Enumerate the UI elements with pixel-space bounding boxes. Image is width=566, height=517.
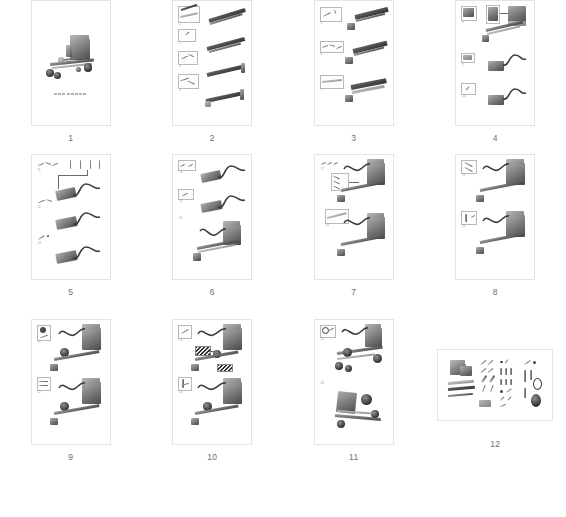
page-number-label: 3 xyxy=(351,134,356,143)
page-preview-4[interactable]: 8 9 10 xyxy=(455,0,535,126)
page-thumbnail-12[interactable]: 12 xyxy=(425,319,566,484)
step-number: 18 xyxy=(326,225,329,228)
step-number: 23 xyxy=(179,340,182,343)
cable-illustration xyxy=(482,159,510,177)
page-artwork-rail-extension: 5 6 7 xyxy=(315,1,393,125)
step-number: 17 xyxy=(321,169,324,172)
page-thumbnail-3[interactable]: 5 6 7 3 xyxy=(283,0,425,154)
page-artwork-frame-rail: 1 2 3 4 xyxy=(173,1,251,125)
step-number: 21 xyxy=(38,342,41,345)
cable-illustration xyxy=(343,159,371,177)
page-artwork-body-detail: 19 20 xyxy=(456,155,534,279)
page-thumbnail-grid: 1 1 2 3 4 xyxy=(0,0,566,517)
page-thumbnail-9[interactable]: 21 22 xyxy=(0,319,142,484)
page-number-label: 1 xyxy=(68,134,73,143)
step-number: 8 xyxy=(462,22,463,25)
step-number: 11 xyxy=(38,170,41,173)
page-artwork-front-hub: 21 22 xyxy=(32,320,110,444)
step-number: 5 xyxy=(321,23,322,26)
cable-illustration xyxy=(197,324,227,342)
page-thumbnail-1[interactable]: 1 xyxy=(0,0,142,154)
page-number-label: 2 xyxy=(210,134,215,143)
step-number: 22 xyxy=(38,392,41,395)
step-number: 25 xyxy=(321,339,324,342)
page-preview-5[interactable]: 11 12 1 xyxy=(31,154,111,280)
page-thumbnail-10[interactable]: 23 24 xyxy=(142,319,284,484)
page-thumbnail-4[interactable]: 8 9 10 xyxy=(425,0,566,154)
page-preview-11[interactable]: 25 26 xyxy=(314,319,394,445)
page-artwork-cable-routing: 11 12 1 xyxy=(32,155,110,279)
page-number-label: 8 xyxy=(493,288,498,297)
page-preview-8[interactable]: 19 20 xyxy=(455,154,535,280)
page-preview-9[interactable]: 21 22 xyxy=(31,319,111,445)
cable-illustration xyxy=(343,213,371,231)
step-number: 1 xyxy=(179,24,180,27)
page-thumbnail-2[interactable]: 1 2 3 4 xyxy=(142,0,284,154)
page-number-label: 11 xyxy=(349,453,358,462)
step-number: 20 xyxy=(462,226,465,229)
step-number: 12 xyxy=(38,207,41,210)
step-number: 14 xyxy=(179,172,182,175)
step-number: 4 xyxy=(179,90,180,93)
page-artwork-overview xyxy=(32,1,110,125)
cable-illustration xyxy=(58,324,86,342)
page-thumbnail-11[interactable]: 25 26 11 xyxy=(283,319,425,484)
step-number: 7 xyxy=(321,90,322,93)
page-preview-6[interactable]: 14 15 16 xyxy=(172,154,252,280)
cable-illustration xyxy=(199,223,227,243)
cable-illustration xyxy=(217,191,247,215)
cable-illustration xyxy=(217,161,247,185)
page-thumbnail-7[interactable]: 17 18 xyxy=(283,154,425,319)
page-number-label: 12 xyxy=(490,440,500,449)
step-number: 19 xyxy=(462,175,465,178)
step-number: 3 xyxy=(179,66,180,69)
cable-illustration xyxy=(72,208,102,232)
page-thumbnail-8[interactable]: 19 20 8 xyxy=(425,154,566,319)
step-number: 2 xyxy=(179,43,180,46)
page-thumbnail-6[interactable]: 14 15 16 xyxy=(142,154,284,319)
step-number: 24 xyxy=(179,392,182,395)
cable-illustration xyxy=(72,179,102,203)
page-artwork-motor-cable: 8 9 10 xyxy=(456,1,534,125)
step-number: 9 xyxy=(462,64,463,67)
cable-illustration xyxy=(58,378,86,396)
cable-illustration xyxy=(482,211,510,229)
cable-illustration xyxy=(72,242,102,266)
page-number-label: 5 xyxy=(68,288,73,297)
cable-illustration xyxy=(502,85,528,107)
page-preview-10[interactable]: 23 24 xyxy=(172,319,252,445)
page-artwork-final-wheels: 25 26 xyxy=(315,320,393,444)
step-number: 6 xyxy=(321,54,322,57)
step-number: 15 xyxy=(179,201,182,204)
cable-illustration xyxy=(341,324,369,340)
step-number: 16 xyxy=(179,218,182,221)
cable-illustration xyxy=(502,51,528,73)
page-number-label: 9 xyxy=(68,453,73,462)
page-thumbnail-5[interactable]: 11 12 1 xyxy=(0,154,142,319)
step-number: 13 xyxy=(38,243,41,246)
page-artwork-decals: 23 24 xyxy=(173,320,251,444)
step-number: 10 xyxy=(462,96,465,99)
page-artwork-body-mount: 17 18 xyxy=(315,155,393,279)
page-preview-3[interactable]: 5 6 7 xyxy=(314,0,394,126)
page-preview-7[interactable]: 17 18 xyxy=(314,154,394,280)
page-artwork-cable-unit-mount: 14 15 16 xyxy=(173,155,251,279)
page-number-label: 10 xyxy=(207,453,217,462)
page-preview-12[interactable] xyxy=(437,349,553,421)
page-preview-1[interactable] xyxy=(31,0,111,126)
page-number-label: 6 xyxy=(210,288,215,297)
step-number: 26 xyxy=(321,383,324,386)
cable-illustration xyxy=(197,378,227,396)
page-artwork-parts-inventory xyxy=(438,350,552,420)
page-number-label: 4 xyxy=(493,134,498,143)
page-preview-2[interactable]: 1 2 3 4 xyxy=(172,0,252,126)
page-number-label: 7 xyxy=(351,288,356,297)
